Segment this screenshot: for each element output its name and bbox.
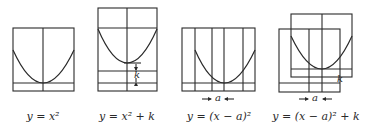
caption-base: y = x² [26,110,59,123]
a-label: a [215,92,221,103]
panel-base [13,28,74,91]
caption-vertical-shift: y = x² + k [99,110,155,123]
caption-horizontal-shift: y = (x − a)² [187,110,251,123]
panel-combined-shift [279,14,352,101]
parabola [195,50,255,83]
a-arrow-right-icon [208,97,212,101]
a-arrow-left-icon [224,97,228,101]
panel-horizontal-shift [182,28,255,101]
panel-vertical-shift [98,8,157,91]
k-label: k [134,69,140,80]
a-arrow-left-icon [322,97,326,101]
a-label: a [312,92,318,103]
a-arrow-right-icon [305,97,309,101]
k-label: k [337,73,343,84]
caption-combined-shift: y = (x − a)² + k [272,110,359,123]
